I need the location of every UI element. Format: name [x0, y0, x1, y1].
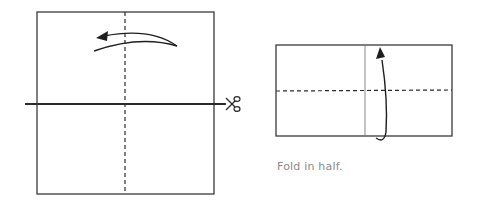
scissors-icon: [226, 97, 240, 112]
fold-arrow-up-icon: [376, 47, 387, 140]
step-1-square: [25, 12, 240, 194]
step-2-rectangle: [276, 45, 452, 140]
origami-diagram: [0, 0, 477, 204]
fold-arrow-left-icon: [94, 31, 177, 51]
horizontal-valley-fold-line: [276, 90, 452, 91]
step-caption: Fold in half.: [277, 160, 343, 173]
